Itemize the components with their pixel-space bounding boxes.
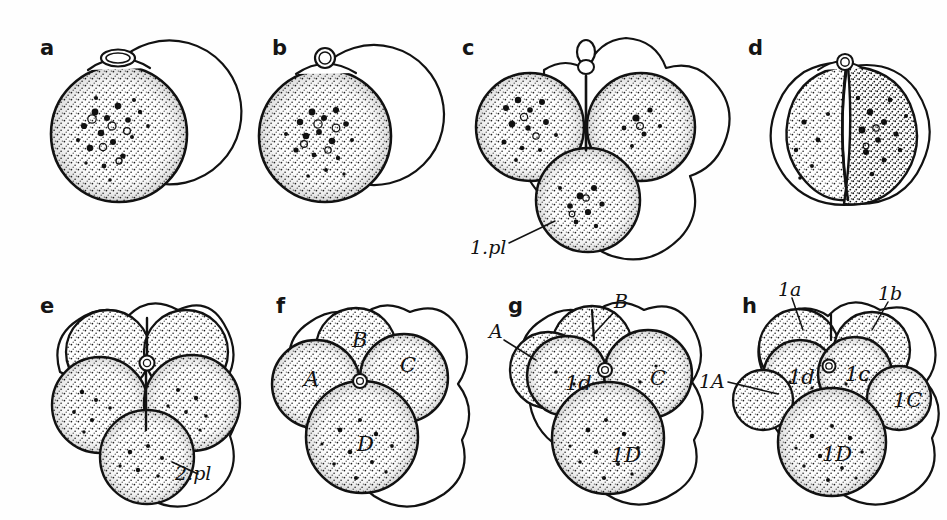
panel-c-drawing: [476, 38, 730, 259]
panel-letter-a: a: [40, 38, 54, 59]
label-h-1A: 1A: [699, 372, 725, 391]
panel-letter-f: f: [276, 296, 285, 317]
label-g-A: A: [489, 322, 503, 341]
panel-letter-c: c: [462, 38, 474, 59]
panel-e-drawing: [52, 303, 240, 506]
label-first-polar-lobe: 1.pl: [470, 238, 506, 257]
panel-f-drawing: [272, 305, 469, 506]
panel-d-drawing: [771, 54, 930, 205]
cell-label-h-1c: 1c: [845, 364, 870, 385]
panel-b-drawing: [259, 45, 444, 202]
panel-letter-e: e: [40, 296, 54, 317]
label-second-polar-lobe: 2.pl: [175, 464, 211, 483]
panel-letter-h: h: [742, 296, 757, 317]
cell-label-h-1d: 1d: [788, 367, 815, 388]
cell-label-g-C: C: [650, 368, 666, 389]
panel-letter-b: b: [272, 38, 287, 59]
panel-a-drawing: [51, 40, 241, 202]
cell-label-f-B: B: [352, 330, 367, 351]
cell-label-f-C: C: [400, 355, 416, 376]
label-h-1a: 1a: [778, 280, 801, 299]
cell-label-g-1d: 1d: [565, 373, 592, 394]
cell-label-h-1C: 1C: [893, 390, 922, 411]
plate-drawing: [0, 0, 947, 520]
cell-label-h-1D: 1D: [822, 444, 852, 465]
panel-letter-g: g: [508, 296, 523, 317]
label-h-1b: 1b: [878, 284, 902, 303]
cleavage-stages-plate: a b c d e f g h 1.pl 2.pl A B C D 1d C 1…: [0, 0, 947, 520]
cell-label-f-A: A: [304, 369, 319, 390]
cell-label-f-D: D: [357, 434, 374, 455]
cell-label-g-1D: 1D: [611, 445, 641, 466]
panel-letter-d: d: [748, 38, 763, 59]
panel-g-drawing: [504, 302, 703, 504]
label-g-B: B: [614, 292, 628, 311]
